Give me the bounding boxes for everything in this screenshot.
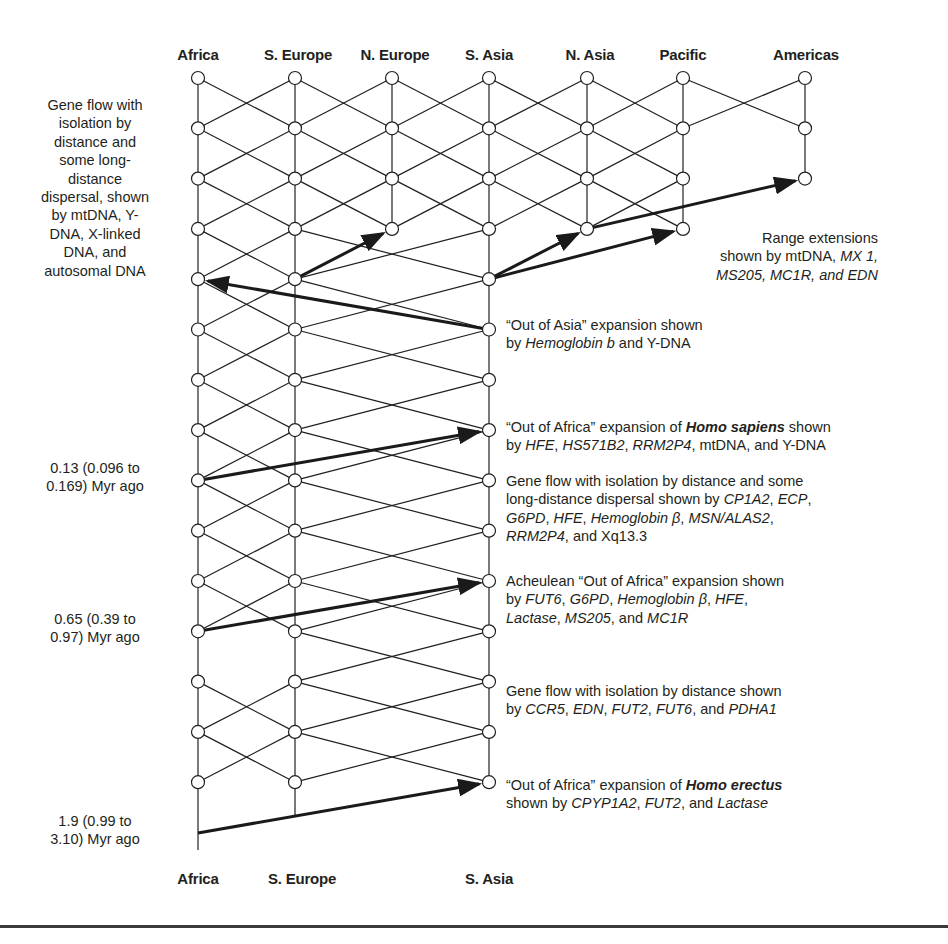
population-node xyxy=(483,625,496,638)
population-node xyxy=(483,222,496,235)
range-extensions-note: Range extensionsshown by mtDNA, MX 1,MS2… xyxy=(716,229,878,284)
header-label-s-asia: S. Asia xyxy=(465,46,513,63)
population-node xyxy=(483,776,496,789)
gene-flow-long-distance-note: Gene flow with isolation by distance and… xyxy=(506,472,812,546)
date-19: 1.9 (0.99 to3.10) Myr ago xyxy=(0,812,190,849)
out-of-africa-sapiens-note: “Out of Africa” expansion of Homo sapien… xyxy=(506,418,831,455)
migration-arrow xyxy=(198,432,479,481)
population-node xyxy=(581,222,594,235)
footer-label-s-asia: S. Asia xyxy=(465,870,513,887)
population-node xyxy=(289,222,302,235)
footer-label-s-europe: S. Europe xyxy=(268,870,336,887)
population-node xyxy=(289,72,302,85)
population-node xyxy=(483,424,496,437)
population-node xyxy=(192,675,205,688)
header-label-s-europe: S. Europe xyxy=(264,46,332,63)
population-node xyxy=(289,474,302,487)
population-node xyxy=(289,323,302,336)
population-node xyxy=(483,273,496,286)
population-node xyxy=(192,524,205,537)
population-node xyxy=(483,72,496,85)
population-node xyxy=(386,122,399,135)
acheulean-note: Acheulean “Out of Africa” expansion show… xyxy=(506,572,784,627)
population-node xyxy=(386,72,399,85)
population-node xyxy=(192,625,205,638)
population-node xyxy=(289,373,302,386)
population-node xyxy=(192,776,205,789)
population-node xyxy=(192,424,205,437)
population-node xyxy=(192,72,205,85)
population-node xyxy=(289,675,302,688)
population-node xyxy=(581,122,594,135)
population-node xyxy=(192,273,205,286)
population-node xyxy=(192,474,205,487)
migration-arrow xyxy=(198,583,479,632)
out-of-asia-note: “Out of Asia” expansion shownby Hemoglob… xyxy=(506,316,703,353)
population-node xyxy=(289,122,302,135)
population-node xyxy=(289,725,302,738)
population-node xyxy=(386,172,399,185)
population-node xyxy=(799,172,812,185)
population-node xyxy=(289,524,302,537)
migration-arrow xyxy=(208,281,489,330)
population-node xyxy=(483,122,496,135)
date-013: 0.13 (0.096 to0.169) Myr ago xyxy=(0,459,190,496)
population-node xyxy=(677,72,690,85)
population-node xyxy=(581,72,594,85)
footer-label-africa: Africa xyxy=(177,870,218,887)
population-node xyxy=(483,373,496,386)
population-node xyxy=(483,172,496,185)
date-065: 0.65 (0.39 to0.97) Myr ago xyxy=(0,610,190,647)
population-node xyxy=(581,172,594,185)
population-node xyxy=(192,122,205,135)
population-node xyxy=(192,323,205,336)
migration-arrow xyxy=(198,784,479,833)
population-node xyxy=(483,725,496,738)
population-node xyxy=(192,725,205,738)
header-label-n-europe: N. Europe xyxy=(360,46,429,63)
population-node xyxy=(192,222,205,235)
header-label-pacific: Pacific xyxy=(660,46,707,63)
migration-arrow xyxy=(587,181,795,229)
population-node xyxy=(289,424,302,437)
population-node xyxy=(677,222,690,235)
population-node xyxy=(799,122,812,135)
migration-arrow xyxy=(489,233,578,279)
population-node xyxy=(677,172,690,185)
population-node xyxy=(289,172,302,185)
gene-flow-isolation-note: Gene flow with isolation by distance sho… xyxy=(506,682,782,719)
migration-arrow xyxy=(489,231,673,279)
population-node xyxy=(289,625,302,638)
population-node xyxy=(192,575,205,588)
population-node xyxy=(289,575,302,588)
population-node xyxy=(677,122,690,135)
population-node xyxy=(483,474,496,487)
population-node xyxy=(799,72,812,85)
population-node xyxy=(192,172,205,185)
population-node xyxy=(483,575,496,588)
bottom-rule-divider xyxy=(0,925,948,928)
population-node xyxy=(483,675,496,688)
gene-flow-note: Gene flow withisolation bydistance andso… xyxy=(0,96,190,280)
out-of-africa-erectus-note: “Out of Africa” expansion of Homo erectu… xyxy=(506,776,782,813)
population-node xyxy=(192,373,205,386)
header-label-n-asia: N. Asia xyxy=(566,46,615,63)
population-node xyxy=(483,524,496,537)
population-node xyxy=(386,222,399,235)
population-node xyxy=(289,776,302,789)
population-node xyxy=(289,273,302,286)
header-label-africa: Africa xyxy=(177,46,218,63)
population-node xyxy=(483,323,496,336)
header-label-americas: Americas xyxy=(773,46,839,63)
